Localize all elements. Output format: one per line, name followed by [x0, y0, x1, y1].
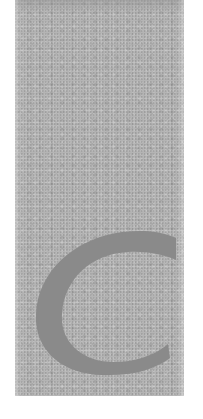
letter-c-shape — [36, 231, 176, 375]
left-edge-fade — [15, 0, 21, 396]
right-edge-fade — [178, 0, 184, 396]
stone-panel — [15, 0, 184, 396]
letter-c-glyph — [36, 222, 176, 382]
top-shadow-band — [15, 0, 184, 12]
